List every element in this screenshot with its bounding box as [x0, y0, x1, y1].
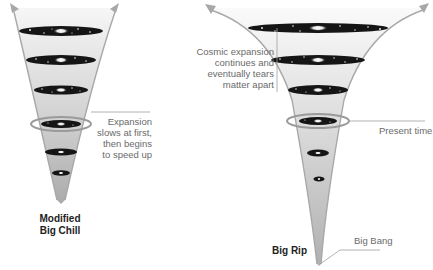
- galaxy-disc: [314, 177, 325, 182]
- galaxy-disc: [45, 149, 77, 156]
- galaxy-disc: [52, 170, 70, 176]
- title-line: Big Chill: [20, 225, 100, 237]
- leader-line: [320, 250, 380, 264]
- galaxy-disc: [248, 23, 388, 33]
- annotation-big-bang: Big Bang: [354, 235, 393, 246]
- annotation-line: continues and: [170, 57, 274, 68]
- galaxy-disc: [26, 55, 96, 65]
- galaxy-disc: [19, 26, 103, 36]
- annotation-expansion-slows: Expansion slows at first, then begins to…: [92, 116, 152, 160]
- modified-big-chill-cone: [10, 3, 150, 204]
- annotation-line: then begins: [92, 138, 152, 149]
- annotation-line: eventually tears: [170, 68, 274, 79]
- annotation-present-time: Present time: [379, 125, 432, 136]
- galaxy-disc: [307, 150, 329, 157]
- galaxy-disc: [271, 55, 365, 65]
- galaxy-disc-present: [41, 120, 81, 128]
- annotation-cosmic-expansion: Cosmic expansion continues and eventuall…: [170, 46, 274, 90]
- annotation-line: matter apart: [170, 79, 274, 90]
- galaxy-disc-present: [299, 117, 337, 125]
- galaxy-disc: [34, 86, 88, 95]
- annotation-line: slows at first,: [92, 127, 152, 138]
- title-line: Modified: [20, 213, 100, 225]
- annotation-line: Cosmic expansion: [170, 46, 274, 57]
- annotation-line: Expansion: [92, 116, 152, 127]
- galaxy-disc: [288, 85, 348, 95]
- scenario-title-modified-big-chill: Modified Big Chill: [20, 213, 100, 237]
- annotation-line: to speed up: [92, 149, 152, 160]
- scenario-title-big-rip: Big Rip: [272, 245, 312, 257]
